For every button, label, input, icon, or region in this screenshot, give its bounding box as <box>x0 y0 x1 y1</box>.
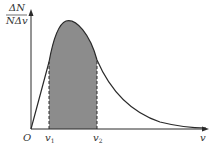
shaded-area <box>49 21 97 129</box>
y-label-denominator: NΔv <box>6 16 28 26</box>
origin-label: O <box>23 132 31 143</box>
v1-label: v1 <box>45 132 54 144</box>
x-axis-label: v <box>200 132 206 143</box>
x-axis-arrow-icon <box>202 127 209 132</box>
y-axis-arrow-icon <box>29 9 34 16</box>
v2-label: v2 <box>93 132 103 144</box>
y-label-numerator: ΔN <box>9 3 25 13</box>
distribution-diagram: O v1 v2 v <box>0 0 211 153</box>
